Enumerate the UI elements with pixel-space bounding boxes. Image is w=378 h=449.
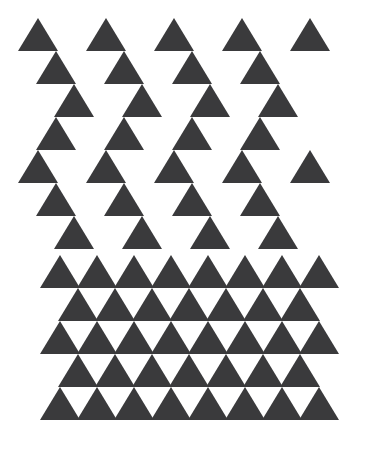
triangle-pattern-figure — [0, 0, 378, 449]
triangle-pattern-canvas — [0, 0, 378, 449]
